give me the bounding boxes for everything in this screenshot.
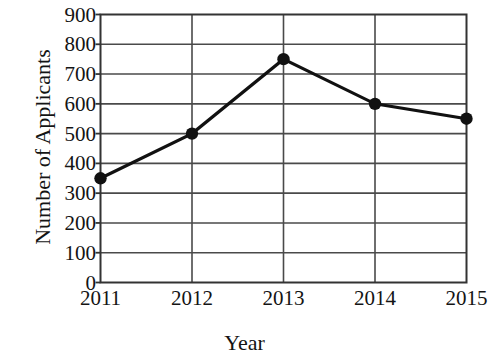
line-chart-figure: Number of Applicants 0100200300400500600…: [0, 0, 489, 363]
x-tick-label: 2011: [61, 288, 141, 309]
data-point-marker: [94, 172, 106, 184]
x-axis-title: Year: [0, 330, 489, 356]
x-tick-label: 2012: [152, 288, 232, 309]
data-point-marker: [277, 53, 289, 65]
x-tick-label: 2014: [335, 288, 415, 309]
x-tick-label: 2013: [244, 288, 324, 309]
data-point-marker: [369, 98, 381, 110]
x-tick-label: 2015: [427, 288, 489, 309]
data-point-marker: [186, 127, 198, 139]
data-point-marker: [460, 113, 472, 125]
